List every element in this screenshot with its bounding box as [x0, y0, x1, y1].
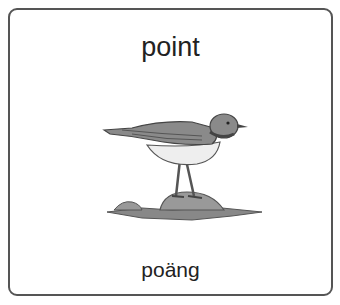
card-translation: poäng [10, 258, 331, 282]
card-title: point [10, 32, 331, 63]
word-card: point poäng [8, 8, 333, 296]
bird-on-rock-icon [102, 100, 272, 230]
